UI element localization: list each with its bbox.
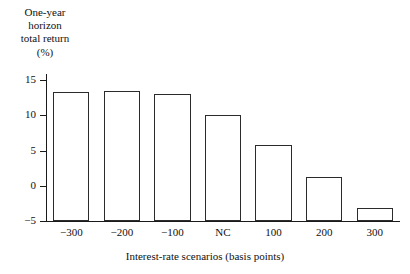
- y-axis-tick: [40, 115, 47, 116]
- y-axis-tick-label: 5: [2, 145, 36, 156]
- y-axis-title-line-3: total return: [2, 32, 88, 45]
- y-axis-tick-label: 15: [2, 74, 36, 85]
- y-axis-tick: [40, 80, 47, 81]
- y-axis-title-line-4: (%): [2, 46, 88, 59]
- x-axis-tick-label: −300: [46, 226, 97, 238]
- bar: [154, 94, 190, 221]
- bar: [357, 208, 393, 221]
- y-axis-tick: [40, 186, 47, 187]
- y-axis-title: One-year horizon total return (%): [2, 6, 88, 59]
- bar: [255, 145, 291, 221]
- y-axis-title-line-2: horizon: [2, 19, 88, 32]
- x-axis-line: [46, 221, 400, 222]
- y-axis-tick-label: −5: [2, 215, 36, 226]
- x-axis-tick-label: −200: [97, 226, 148, 238]
- x-axis-title: Interest-rate scenarios (basis points): [0, 250, 410, 263]
- chart-figure: One-year horizon total return (%) 151050…: [0, 0, 410, 274]
- x-axis-tick-label: 100: [248, 226, 299, 238]
- x-axis-tick-label: 200: [299, 226, 350, 238]
- y-axis-title-line-1: One-year: [2, 6, 88, 19]
- y-axis-line: [46, 74, 47, 222]
- bar: [104, 91, 140, 221]
- y-axis-tick-label: 0: [2, 180, 36, 191]
- bar: [205, 115, 241, 221]
- x-axis-tick-label: 300: [349, 226, 400, 238]
- bar: [306, 177, 342, 221]
- y-axis-tick: [40, 221, 47, 222]
- y-axis-tick: [40, 151, 47, 152]
- bar: [53, 92, 89, 221]
- x-axis-tick-label: NC: [198, 226, 249, 238]
- y-axis-tick-label: 10: [2, 109, 36, 120]
- x-axis-tick-label: −100: [147, 226, 198, 238]
